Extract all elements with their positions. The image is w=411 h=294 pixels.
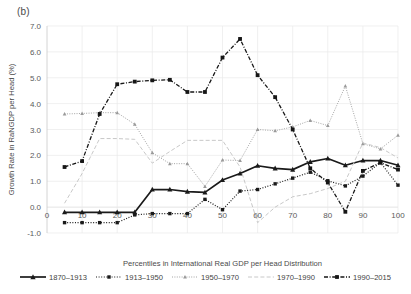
series-marker (133, 80, 137, 84)
series-marker (98, 221, 101, 224)
plot-area: -1.00.01.02.03.04.05.06.07.0010203040506… (0, 0, 411, 294)
series-marker (326, 124, 330, 128)
legend-item-1950-1970[interactable]: 1950–1970 (172, 272, 239, 282)
series-marker (133, 213, 136, 216)
series-marker (238, 189, 241, 192)
legend-item-1990-2015[interactable]: 1990–2015 (324, 272, 391, 282)
legend-swatch-icon (248, 272, 274, 282)
legend-swatch-icon (20, 272, 46, 282)
series-marker (151, 212, 154, 215)
series-marker (186, 90, 190, 94)
legend-label: 1970–1990 (277, 273, 315, 282)
y-tick-label-5.0: 5.0 (30, 74, 42, 83)
x-tick-label-90: 90 (358, 211, 367, 220)
x-tick-label-80: 80 (323, 211, 332, 220)
series-marker (344, 84, 348, 88)
line-chart: -1.00.01.02.03.04.05.06.07.0010203040506… (0, 0, 411, 294)
series-marker (133, 122, 137, 126)
series-marker (326, 181, 330, 185)
chart-page: (b) -1.00.01.02.03.04.05.06.07.001020304… (0, 0, 411, 294)
series-marker (203, 198, 206, 201)
series-line-1870-1913 (65, 158, 398, 212)
legend-swatch-icon (324, 272, 350, 282)
series-marker (273, 182, 276, 185)
series-marker (63, 165, 67, 169)
y-tick-label-4.0: 4.0 (30, 100, 42, 109)
x-tick-label-50: 50 (218, 211, 227, 220)
series-marker (168, 78, 172, 82)
series-marker (379, 161, 383, 165)
x-tick-label-0: 0 (45, 211, 50, 220)
series-marker (80, 111, 84, 115)
series-marker (396, 168, 400, 172)
y-tick-label-0.0: 0.0 (30, 203, 42, 212)
series-marker (150, 151, 154, 155)
legend-item-1970-1990[interactable]: 1970–1990 (248, 272, 315, 282)
series-marker (291, 176, 294, 179)
x-tick-label-100: 100 (391, 211, 405, 220)
series-marker (63, 221, 66, 224)
series-marker (221, 208, 224, 211)
series-line-1990-2015 (65, 39, 398, 212)
y-tick-label-7.0: 7.0 (30, 22, 42, 31)
series-marker (116, 221, 119, 224)
series-marker (343, 210, 347, 214)
series-marker (308, 166, 312, 170)
chart-legend: 1870–19131913–19501950–19701970–19901990… (0, 272, 411, 282)
series-marker (238, 159, 242, 163)
y-axis-title: Growth Rate in RaNGDP per Head (%) (7, 63, 16, 195)
series-marker (186, 212, 189, 215)
series-line-1970-1990 (65, 139, 398, 223)
y-tick-label-2.0: 2.0 (30, 151, 42, 160)
series-marker (150, 78, 154, 82)
series-line-1950-1970 (65, 86, 398, 186)
x-axis-title: Percentiles in International Real GDP pe… (123, 259, 322, 268)
legend-label: 1950–1970 (201, 273, 239, 282)
series-marker (256, 73, 260, 77)
series-marker (273, 95, 277, 99)
series-marker (80, 159, 84, 163)
series-marker (63, 112, 67, 116)
series-marker (291, 128, 295, 132)
series-marker (168, 162, 172, 166)
series-marker (221, 56, 225, 60)
legend-swatch-icon (172, 272, 198, 282)
legend-swatch-icon (96, 272, 122, 282)
legend-label: 1913–1950 (125, 273, 163, 282)
y-tick-label-3.0: 3.0 (30, 126, 42, 135)
series-marker (168, 212, 171, 215)
series-marker (256, 188, 259, 191)
series-marker (396, 133, 400, 137)
series-marker (80, 221, 83, 224)
series-marker (238, 37, 242, 41)
y-tick-label-6.0: 6.0 (30, 48, 42, 57)
series-marker (98, 112, 102, 116)
series-marker (308, 118, 312, 122)
legend-item-1913-1950[interactable]: 1913–1950 (96, 272, 163, 282)
legend-label: 1870–1913 (49, 273, 87, 282)
series-marker (203, 90, 207, 94)
series-marker (309, 170, 312, 173)
series-marker (361, 169, 365, 173)
x-tick-label-70: 70 (288, 211, 297, 220)
y-tick-label--1.0: -1.0 (27, 229, 41, 238)
legend-label: 1990–2015 (353, 273, 391, 282)
legend-item-1870-1913[interactable]: 1870–1913 (20, 272, 87, 282)
series-marker (396, 183, 399, 186)
series-marker (344, 184, 347, 187)
series-marker (115, 82, 119, 86)
y-tick-label-1.0: 1.0 (30, 177, 42, 186)
